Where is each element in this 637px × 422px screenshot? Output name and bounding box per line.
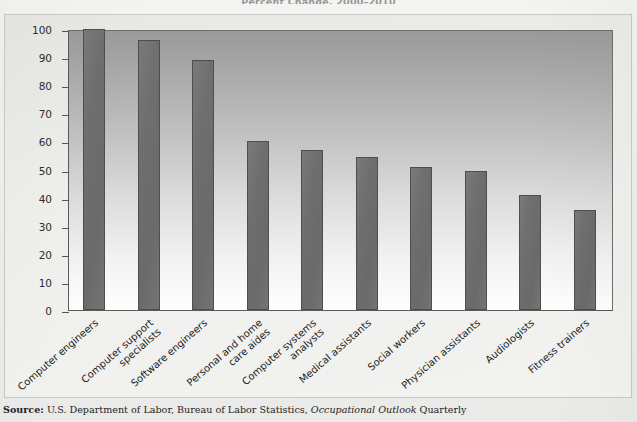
y-axis-tick-label: 100	[18, 24, 52, 36]
bar	[83, 29, 105, 310]
bar	[301, 150, 323, 310]
y-axis-tick	[62, 31, 69, 32]
y-axis-tick	[62, 284, 69, 285]
y-axis-tick-label: 20	[18, 249, 52, 261]
bar	[247, 141, 269, 310]
scanned-page: Percent Change, 2000–2010 Percent Change…	[0, 0, 637, 422]
y-axis-tick	[62, 172, 69, 173]
y-axis-tick-label: 80	[18, 80, 52, 92]
bar	[519, 195, 541, 310]
y-axis-tick-label: 70	[18, 108, 52, 120]
source-tail: Quarterly	[417, 404, 467, 415]
bar	[410, 167, 432, 310]
y-axis-tick-label: 30	[18, 221, 52, 233]
y-axis-tick-label: 10	[18, 277, 52, 289]
y-axis-tick	[62, 143, 69, 144]
y-axis-tick-label: 40	[18, 193, 52, 205]
bar	[192, 60, 214, 310]
y-axis-tick	[62, 200, 69, 201]
source-publication: Occupational Outlook	[311, 404, 417, 415]
y-axis-tick	[62, 87, 69, 88]
source-body: U.S. Department of Labor, Bureau of Labo…	[44, 404, 311, 415]
plot-area	[68, 30, 613, 311]
bar	[138, 40, 160, 310]
y-axis-tick	[62, 256, 69, 257]
y-axis-tick-label: 0	[18, 305, 52, 317]
bar	[356, 157, 378, 310]
bar	[465, 171, 487, 310]
bar	[574, 210, 596, 310]
y-axis-tick	[62, 59, 69, 60]
y-axis-tick-label: 50	[18, 165, 52, 177]
y-axis-tick-label: 90	[18, 52, 52, 64]
y-axis-tick	[62, 312, 69, 313]
y-axis-tick	[62, 115, 69, 116]
source-label: Source:	[3, 404, 44, 415]
figure-frame: Percent Change, 2000–2010 01020304050607…	[4, 14, 632, 398]
y-axis-tick	[62, 228, 69, 229]
y-axis-tick-label: 60	[18, 136, 52, 148]
figure-title: Percent Change, 2000–2010	[0, 0, 637, 4]
source-note: Source: U.S. Department of Labor, Bureau…	[3, 404, 637, 422]
